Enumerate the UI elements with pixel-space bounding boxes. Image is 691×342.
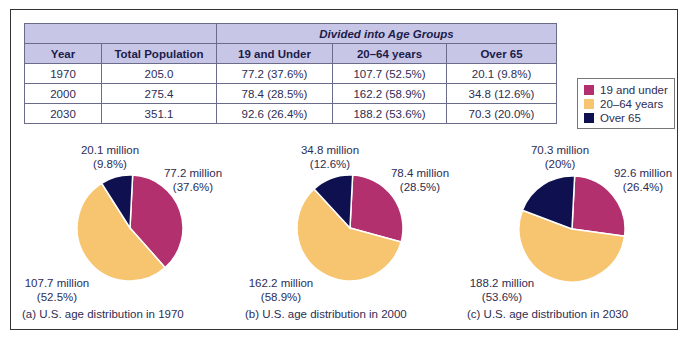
pie-label-under19: 78.4 million (28.5%) (385, 166, 455, 194)
cell: 78.4 (28.5%) (217, 84, 333, 104)
cell: 92.6 (26.4%) (217, 104, 333, 124)
legend-label: 20–64 years (600, 98, 663, 110)
label-percent: (58.9%) (246, 290, 316, 304)
legend-label: Over 65 (600, 112, 641, 124)
legend-item-under19: 19 and under (584, 83, 674, 97)
pie-caption: (a) U.S. age distribution in 1970 (22, 308, 184, 320)
cell: 70.3 (20.0%) (447, 104, 557, 124)
legend-item-mid: 20–64 years (584, 97, 674, 111)
table-row: 2030 351.1 92.6 (26.4%) 188.2 (53.6%) 70… (25, 104, 557, 124)
cell: 351.1 (102, 104, 217, 124)
legend-label: 19 and under (600, 84, 668, 96)
label-value: 92.6 million (608, 166, 678, 180)
table-header-mid: 20–64 years (333, 44, 447, 64)
pie-label-mid: 107.7 million (52.5%) (22, 276, 92, 304)
label-percent: (52.5%) (22, 290, 92, 304)
cell: 2000 (25, 84, 102, 104)
table-header-over65: Over 65 (447, 44, 557, 64)
cell: 1970 (25, 64, 102, 84)
cell: 2030 (25, 104, 102, 124)
population-table: Divided into Age Groups Year Total Popul… (24, 23, 557, 124)
pie-label-mid: 188.2 million (53.6%) (467, 276, 537, 304)
pie-label-under19: 77.2 million (37.6%) (158, 166, 228, 194)
table-header-total: Total Population (102, 44, 217, 64)
label-value: 20.1 million (80, 143, 140, 157)
table-row: 1970 205.0 77.2 (37.6%) 107.7 (52.5%) 20… (25, 64, 557, 84)
pie-label-mid: 162.2 million (58.9%) (246, 276, 316, 304)
label-percent: (20%) (530, 157, 590, 171)
label-percent: (37.6%) (158, 180, 228, 194)
label-value: 34.8 million (300, 143, 360, 157)
swatch-icon (584, 113, 594, 123)
cell: 188.2 (53.6%) (333, 104, 447, 124)
table-row: 2000 275.4 78.4 (28.5%) 162.2 (58.9%) 34… (25, 84, 557, 104)
label-value: 162.2 million (246, 276, 316, 290)
cell: 34.8 (12.6%) (447, 84, 557, 104)
table-group-header-row: Divided into Age Groups (25, 24, 557, 44)
swatch-icon (584, 99, 594, 109)
table-header-under19: 19 and Under (217, 44, 333, 64)
pie-label-under19: 92.6 million (26.4%) (608, 166, 678, 194)
label-value: 70.3 million (530, 143, 590, 157)
cell: 162.2 (58.9%) (333, 84, 447, 104)
table-header-blank (25, 24, 217, 44)
pie-caption: (b) U.S. age distribution in 2000 (245, 308, 407, 320)
cell: 275.4 (102, 84, 217, 104)
cell: 107.7 (52.5%) (333, 64, 447, 84)
label-value: 77.2 million (158, 166, 228, 180)
table-header-year: Year (25, 44, 102, 64)
label-percent: (26.4%) (608, 180, 678, 194)
label-value: 107.7 million (22, 276, 92, 290)
label-value: 188.2 million (467, 276, 537, 290)
pie-caption: (c) U.S. age distribution in 2030 (467, 308, 628, 320)
legend-item-over65: Over 65 (584, 111, 674, 125)
pie-label-over65: 70.3 million (20%) (530, 143, 590, 171)
cell: 20.1 (9.8%) (447, 64, 557, 84)
label-percent: (28.5%) (385, 180, 455, 194)
cell: 77.2 (37.6%) (217, 64, 333, 84)
label-percent: (12.6%) (300, 157, 360, 171)
table-header-row: Year Total Population 19 and Under 20–64… (25, 44, 557, 64)
pie-label-over65: 34.8 million (12.6%) (300, 143, 360, 171)
cell: 205.0 (102, 64, 217, 84)
label-percent: (53.6%) (467, 290, 537, 304)
label-value: 78.4 million (385, 166, 455, 180)
label-percent: (9.8%) (80, 157, 140, 171)
legend: 19 and under 20–64 years Over 65 (577, 78, 675, 129)
swatch-icon (584, 85, 594, 95)
table-group-header: Divided into Age Groups (217, 24, 557, 44)
pie-label-over65: 20.1 million (9.8%) (80, 143, 140, 171)
